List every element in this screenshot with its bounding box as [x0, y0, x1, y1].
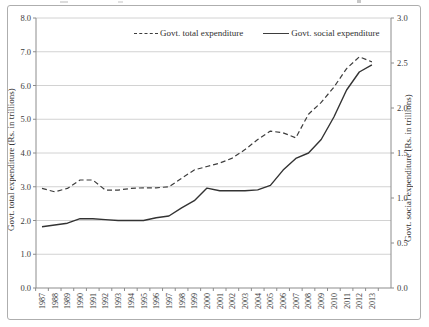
x-axis-tick-label: 2012 [355, 293, 364, 309]
x-axis-tick-label: 2005 [266, 293, 275, 309]
x-axis-tick-label: 1991 [89, 293, 98, 309]
x-axis-tick-label: 1999 [190, 293, 199, 309]
x-axis-tick-label: 2001 [216, 293, 225, 309]
chart-figure: 0.01.02.03.04.05.06.07.08.00.00.51.01.52… [0, 0, 429, 327]
x-axis-tick-label: 2010 [330, 293, 339, 309]
x-axis-tick-label: 2007 [292, 293, 301, 309]
left-axis-tick-label: 3.0 [20, 182, 31, 192]
x-axis-tick-label: 2002 [228, 293, 237, 309]
x-axis-tick-label: 1994 [127, 293, 136, 309]
left-axis-tick-label: 2.0 [20, 216, 31, 226]
x-axis-tick-label: 1988 [51, 293, 60, 309]
x-axis-tick-label: 1997 [165, 293, 174, 309]
left-axis-tick-label: 7.0 [20, 47, 31, 57]
x-axis-tick-label: 1989 [63, 293, 72, 309]
right-axis-title: Govt. social expenditure (Rs. in trillio… [403, 48, 413, 288]
x-axis-tick-label: 1990 [76, 293, 85, 309]
x-axis-tick-label: 1987 [38, 293, 47, 309]
x-axis-tick-label: 1998 [178, 293, 187, 309]
x-axis-tick-label: 2013 [368, 293, 377, 309]
series-line-total [42, 57, 372, 192]
legend-label: Govt. total expenditure [160, 28, 243, 38]
left-axis-title: Govt. total expenditure (Rs. in trillion… [6, 40, 16, 280]
left-axis-tick-label: 8.0 [20, 13, 31, 23]
x-axis-tick-label: 1995 [140, 293, 149, 309]
line-chart: 0.01.02.03.04.05.06.07.08.00.00.51.01.52… [0, 0, 429, 327]
left-axis-tick-label: 1.0 [20, 249, 31, 259]
dashed-line-sample-icon [134, 33, 158, 34]
x-axis-tick-label: 1996 [152, 293, 161, 309]
series-line-social [42, 65, 372, 227]
right-axis-tick-label: 3.0 [397, 13, 408, 23]
x-axis-tick-label: 2009 [317, 293, 326, 309]
x-axis-tick-label: 2000 [203, 293, 212, 309]
left-axis-tick-label: 6.0 [20, 81, 31, 91]
x-axis-tick-label: 2003 [241, 293, 250, 309]
legend-item-social: Govt. social expenditure [263, 28, 379, 38]
chart-legend: Govt. total expenditureGovt. social expe… [134, 28, 379, 38]
x-axis-tick-label: 1992 [101, 293, 110, 309]
legend-item-total: Govt. total expenditure [134, 28, 243, 38]
x-axis-tick-label: 2006 [279, 293, 288, 309]
left-axis-tick-label: 4.0 [20, 148, 31, 158]
x-axis-tick-label: 2004 [254, 293, 263, 309]
left-axis-tick-label: 5.0 [20, 114, 31, 124]
left-axis-tick-label: 0.0 [20, 283, 31, 293]
x-axis-tick-label: 2011 [343, 293, 352, 309]
legend-label: Govt. social expenditure [291, 28, 379, 38]
solid-line-sample-icon [263, 33, 289, 34]
x-axis-tick-label: 1993 [114, 293, 123, 309]
x-axis-tick-label: 2008 [304, 293, 313, 309]
